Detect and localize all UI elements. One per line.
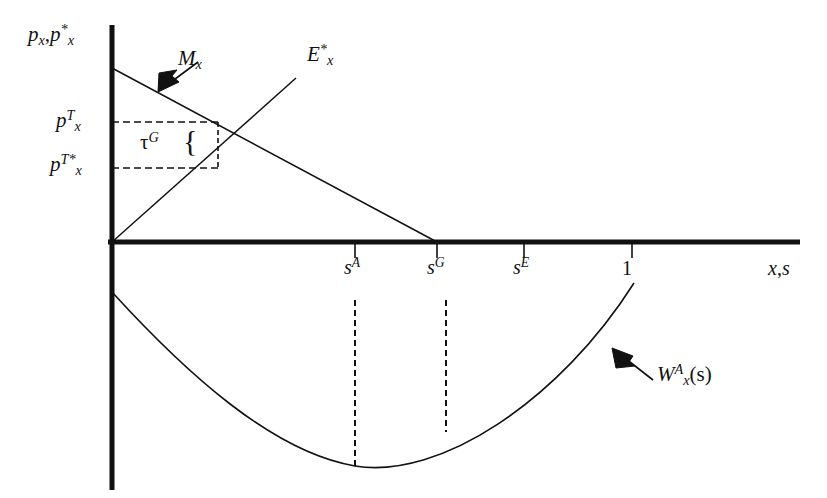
price-label-p-x-T: pTx xyxy=(56,108,81,134)
tax-wedge-label: τG xyxy=(140,130,159,153)
welfare-curve-label: WAx(s) xyxy=(657,362,712,388)
economics-diagram-figure: px,p*x x,s pTx pT*x τG { Mx E*x WAx(s) s… xyxy=(0,0,827,498)
tax-wedge-brace: { xyxy=(183,124,197,158)
x-tick-label-one: 1 xyxy=(622,258,632,278)
x-tick-label-s-G: sG xyxy=(427,256,445,277)
x-axis-ticks xyxy=(355,244,632,258)
price-label-p-x-T-star: pT*x xyxy=(50,152,82,178)
import-demand-curve-label: Mx xyxy=(178,48,202,71)
y-axis-caption: px,p*x xyxy=(28,22,74,48)
import-demand-curve xyxy=(112,68,437,242)
welfare-curve xyxy=(112,283,634,468)
export-supply-curve-label: E*x xyxy=(307,42,333,68)
drop-lines xyxy=(355,300,446,467)
x-tick-label-s-E: sE xyxy=(513,256,529,277)
x-axis-caption: x,s xyxy=(768,258,790,278)
x-tick-label-s-A: sA xyxy=(344,256,360,277)
w-curve-arrow xyxy=(612,348,653,380)
export-supply-curve xyxy=(112,78,296,242)
diagram-canvas xyxy=(0,0,827,498)
